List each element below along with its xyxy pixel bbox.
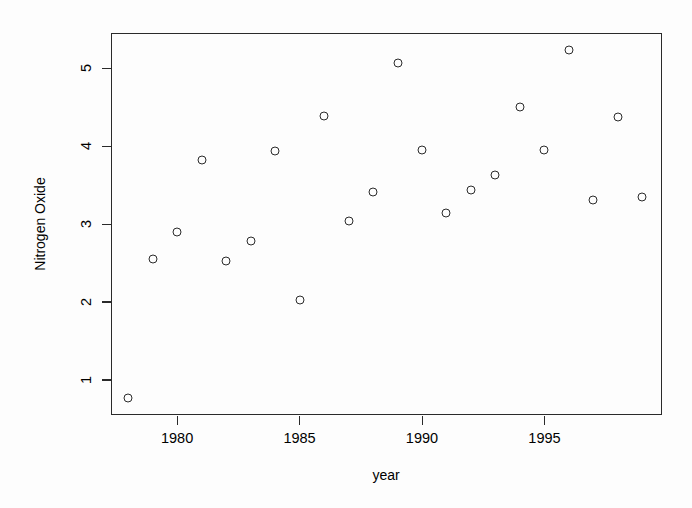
data-point	[369, 188, 378, 197]
data-point	[393, 58, 402, 67]
data-point	[320, 112, 329, 121]
data-point	[613, 113, 622, 122]
data-point	[515, 103, 524, 112]
data-point	[246, 237, 255, 246]
data-point	[638, 193, 647, 202]
data-point	[173, 227, 182, 236]
data-point	[148, 255, 157, 264]
data-point	[491, 170, 500, 179]
data-point	[466, 185, 475, 194]
data-point	[540, 145, 549, 154]
data-point	[564, 46, 573, 55]
data-point	[271, 147, 280, 156]
data-point	[222, 256, 231, 265]
data-point	[589, 195, 598, 204]
data-point	[197, 156, 206, 165]
data-point	[418, 145, 427, 154]
data-point	[344, 216, 353, 225]
data-point	[124, 393, 133, 402]
data-point	[442, 209, 451, 218]
scatter-plot-figure: 12345 1980198519901995 Nitrogen Oxide ye…	[0, 0, 692, 508]
data-points-layer	[0, 0, 692, 508]
data-point	[295, 295, 304, 304]
